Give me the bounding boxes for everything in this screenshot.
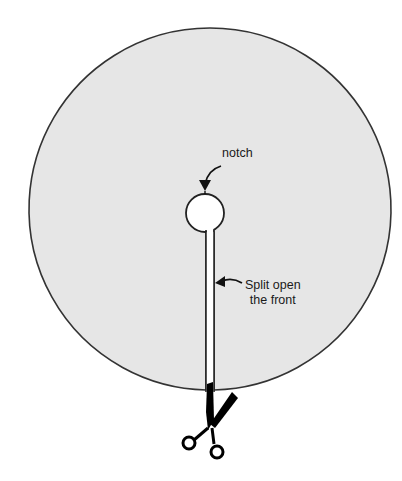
split-label-line-2: the front (245, 293, 301, 308)
fabric-circle (29, 28, 391, 392)
circle-pattern-diagram (0, 0, 402, 481)
split-label-line-1: Split open (245, 278, 301, 293)
scissors-icon (183, 382, 238, 458)
split-open-label: Split open the front (245, 278, 301, 308)
center-hole (186, 194, 224, 232)
notch-label: notch (222, 146, 253, 161)
